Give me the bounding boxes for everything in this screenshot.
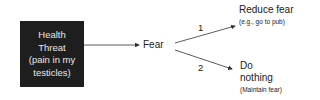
- box-line: testicles): [20, 67, 84, 80]
- fear-node: Fear: [143, 39, 164, 50]
- box-line: Threat: [20, 42, 84, 55]
- do-nothing-subtitle: (Maintain fear): [240, 86, 282, 93]
- box-line: (pain in my: [20, 54, 84, 67]
- reduce-fear-subtitle: (e.g., go to pub): [239, 18, 285, 25]
- reduce-fear-title: Reduce fear: [239, 4, 293, 15]
- box-line: Health: [20, 29, 84, 42]
- branch-1-number: 1: [198, 22, 203, 33]
- health-threat-box: Health Threat (pain in my testicles): [20, 21, 84, 87]
- branch-2-number: 2: [198, 62, 203, 73]
- do-nothing-title-line1: Do: [240, 60, 253, 71]
- do-nothing-title-line2: nothing: [240, 72, 273, 83]
